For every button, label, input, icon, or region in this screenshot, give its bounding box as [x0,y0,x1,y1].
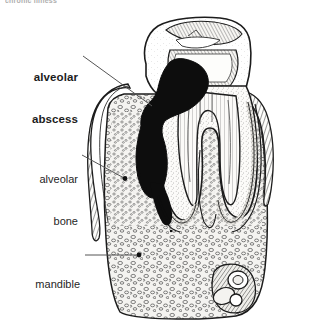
leader-dot-mandible [137,253,142,258]
label-alveolar-abscess-line2: abscess [6,112,78,126]
label-alveolar-bone-line1: alveolar [6,172,78,186]
label-mandible: mandible [4,249,80,319]
inferior-alveolar-canal [211,264,256,313]
label-alveolar-abscess-line1: alveolar [6,70,78,84]
label-alveolar-abscess: alveolar abscess [6,42,78,154]
label-alveolar-bone: alveolar bone [6,144,78,256]
anatomical-figure: chronic illness [0,0,311,328]
leader-dot-alveolar-bone [123,176,128,181]
label-mandible-line1: mandible [4,277,80,291]
label-alveolar-bone-line2: bone [6,214,78,228]
